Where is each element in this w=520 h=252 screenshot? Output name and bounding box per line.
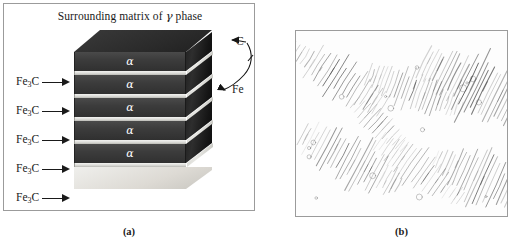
fe3c-label-5: Fe3C (16, 192, 39, 205)
ferrite-lamella-5-front: α (74, 144, 186, 163)
iron-label: Fe (232, 83, 244, 95)
gamma-symbol: γ (166, 9, 173, 23)
ferrite-lamella-1-front: α (74, 52, 186, 71)
fe3c-label-4: Fe3C (16, 163, 39, 176)
iron-arrow-icon (218, 89, 225, 90)
pointer-arrow-icon-2 (42, 107, 70, 115)
pointer-arrow-icon-1 (42, 78, 70, 86)
cementite-plate-5 (74, 163, 186, 167)
fe3c-label-row-2: Fe3C (16, 104, 70, 118)
panel-b-caption: (b) (295, 226, 508, 237)
fe3c-label-row-4: Fe3C (16, 162, 70, 176)
pearlite-micrograph-image (296, 31, 507, 216)
ferrite-lamella-4-front: α (74, 121, 186, 140)
fe3c-subscript-5: 3 (28, 196, 32, 205)
curve-tick (248, 55, 253, 61)
panel-b-micrograph (295, 30, 508, 217)
stack-base-face (74, 167, 212, 189)
alpha-label-4: α (75, 125, 185, 136)
title-suffix: phase (173, 10, 203, 22)
panel-a-schematic: Surrounding matrix of γ phase Fe3C Fe3C … (3, 3, 255, 211)
pointer-arrow-icon-4 (42, 165, 70, 173)
fe3c-subscript-3: 3 (28, 138, 32, 147)
title-prefix: Surrounding matrix of (58, 10, 166, 22)
fe3c-subscript-1: 3 (28, 80, 32, 89)
alpha-label-3: α (75, 102, 185, 113)
panel-a-caption: (a) (3, 226, 255, 237)
fe3c-label-1: Fe3C (16, 76, 39, 89)
ferrite-lamella-2-front: α (74, 75, 186, 94)
diffusion-annotation-group (190, 30, 256, 115)
pointer-arrow-icon-3 (42, 136, 70, 144)
alpha-label-5: α (75, 148, 185, 159)
fe3c-label-2: Fe3C (16, 105, 39, 118)
fe3c-label-row-1: Fe3C (16, 75, 70, 89)
alpha-label-2: α (75, 79, 185, 90)
fe3c-subscript-2: 3 (28, 109, 32, 118)
fe3c-subscript-4: 3 (28, 167, 32, 176)
alpha-label-1: α (75, 56, 185, 67)
pointer-arrow-icon-5 (42, 194, 70, 202)
carbon-label: C (236, 35, 244, 47)
ferrite-lamella-3-front: α (74, 98, 186, 117)
panel-a-title: Surrounding matrix of γ phase (4, 9, 256, 23)
fe3c-label-row-3: Fe3C (16, 133, 70, 147)
fe3c-label-row-5: Fe3C (16, 191, 70, 205)
fe3c-label-3: Fe3C (16, 134, 39, 147)
